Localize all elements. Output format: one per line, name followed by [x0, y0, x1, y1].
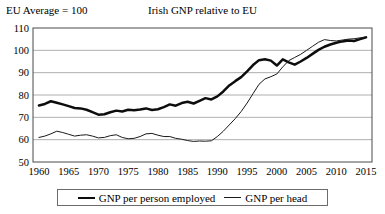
x-tick-label: 2015: [356, 166, 377, 177]
y-tick-label: 90: [19, 67, 30, 78]
x-tick-label: 2000: [266, 166, 287, 177]
x-tick-label: 1960: [28, 166, 49, 177]
legend-swatch-thick: [78, 197, 95, 199]
y-tick-label: 50: [19, 157, 30, 168]
x-tick-label: 2005: [296, 166, 317, 177]
y-tick-label: 100: [13, 45, 29, 56]
x-tick-label: 1995: [237, 166, 258, 177]
x-tick-label: 1980: [147, 166, 168, 177]
y-tick-label: 60: [19, 134, 30, 145]
series-line-gnp-per-person-employed: [39, 37, 366, 114]
y-tick-label: 80: [19, 90, 30, 101]
legend-item-gnp-per-head: GNP per head: [224, 192, 307, 204]
x-tick-label: 2010: [326, 166, 347, 177]
y-axis-tick-labels: 5060708090100110: [13, 23, 29, 168]
line-chart-plot: 5060708090100110 19601965197019751980198…: [0, 0, 385, 214]
legend-swatch-thin: [224, 197, 241, 198]
legend-label-gnp-per-person-employed: GNP per person employed: [99, 192, 216, 204]
y-tick-label: 110: [14, 23, 29, 34]
x-axis-tick-labels: 1960196519701975198019851990199520002005…: [28, 166, 376, 177]
chart-legend: GNP per person employed GNP per head: [57, 189, 328, 206]
x-tick-label: 1990: [207, 166, 228, 177]
chart-figure: EU Average = 100 Irish GNP relative to E…: [0, 0, 385, 214]
x-tick-label: 1970: [88, 166, 109, 177]
gridlines: [33, 50, 372, 139]
y-tick-label: 70: [19, 112, 30, 123]
x-tick-label: 1985: [177, 166, 198, 177]
legend-item-gnp-per-person-employed: GNP per person employed: [78, 192, 216, 204]
x-tick-label: 1975: [118, 166, 139, 177]
x-tick-label: 1965: [58, 166, 79, 177]
series-line-gnp-per-head: [39, 37, 366, 142]
legend-label-gnp-per-head: GNP per head: [245, 192, 307, 204]
data-series-group: [39, 37, 366, 142]
